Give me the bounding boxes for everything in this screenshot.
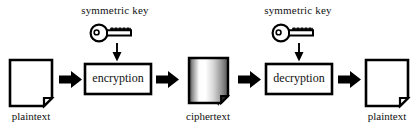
key-arrow-down-decryption xyxy=(295,43,304,62)
key-label-decryption: symmetric key xyxy=(252,4,344,16)
key-icon xyxy=(273,25,313,42)
plaintext-output-document xyxy=(366,60,408,106)
flow-arrow-plaintext-to-encryption xyxy=(59,71,82,88)
flow-arrow-decryption-to-plaintext xyxy=(338,71,361,88)
flow-arrow-encryption-to-ciphertext xyxy=(156,71,179,88)
flow-arrow-ciphertext-to-decryption xyxy=(238,71,261,88)
key-arrow-down-encryption xyxy=(113,43,122,62)
ciphertext-caption: ciphertext xyxy=(177,110,239,122)
key-icon xyxy=(91,25,131,42)
plaintext-output-caption: plaintext xyxy=(357,110,417,122)
ciphertext-document xyxy=(189,58,228,106)
plaintext-input-document xyxy=(10,60,52,106)
decryption-box-label: decryption xyxy=(266,71,332,86)
key-label-encryption: symmetric key xyxy=(69,4,161,16)
plaintext-input-caption: plaintext xyxy=(1,110,61,122)
encryption-box-label: encryption xyxy=(85,71,151,86)
